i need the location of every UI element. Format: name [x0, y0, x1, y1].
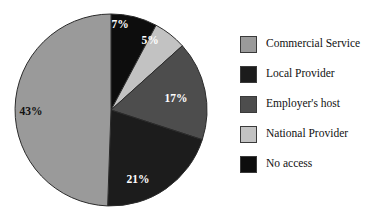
pie-chart-plot-area: 7%5%17%21%43% [0, 0, 225, 221]
pie-slice-group [15, 14, 207, 206]
legend-item-label: Commercial Service [266, 38, 360, 50]
pie-chart-svg: 7%5%17%21%43% [0, 0, 225, 221]
pie-slice-data-label: 43% [20, 105, 43, 117]
legend-item-label: National Provider [266, 128, 348, 140]
legend-item[interactable]: Employer's host [240, 93, 372, 115]
pie-chart-figure: 7%5%17%21%43% Commercial ServiceLocal Pr… [0, 0, 372, 221]
pie-slice-data-label: 5% [141, 34, 158, 46]
legend-color-swatch [240, 96, 257, 113]
legend-color-swatch [240, 36, 257, 53]
legend-color-swatch [240, 126, 257, 143]
pie-slice-data-label: 7% [111, 18, 128, 30]
chart-legend: Commercial ServiceLocal ProviderEmployer… [240, 33, 372, 175]
legend-item[interactable]: Commercial Service [240, 33, 372, 55]
legend-item[interactable]: National Provider [240, 123, 372, 145]
pie-slice-data-label: 21% [127, 173, 150, 185]
legend-item[interactable]: Local Provider [240, 63, 372, 85]
legend-color-swatch [240, 156, 257, 173]
pie-slice-data-label: 17% [165, 92, 188, 104]
legend-color-swatch [240, 66, 257, 83]
legend-item-label: Local Provider [266, 68, 335, 80]
legend-item-label: No access [266, 158, 312, 170]
legend-item[interactable]: No access [240, 153, 372, 175]
legend-item-label: Employer's host [266, 98, 340, 110]
